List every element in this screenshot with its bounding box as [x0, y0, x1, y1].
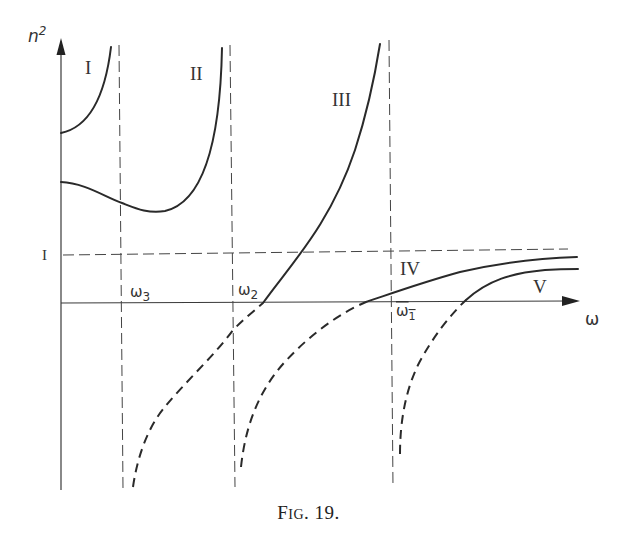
branch-III-solid	[263, 44, 380, 303]
x-axis	[61, 301, 568, 303]
caption-number: . 19.	[304, 502, 340, 523]
unit-line	[63, 249, 568, 255]
dispersion-diagram: n2 ω I ω3 ω2 ω1 I II III IV V	[0, 0, 617, 534]
omega3-asymptote	[119, 45, 123, 488]
branch-III-dashed	[133, 303, 263, 487]
unit-line-label: I	[42, 247, 47, 263]
branch-V-solid	[466, 269, 578, 300]
omega2-asymptote	[230, 45, 235, 487]
caption-initial: F	[277, 502, 288, 523]
figure-caption: FIG. 19.	[0, 502, 617, 524]
branch-IV-label: IV	[400, 258, 420, 279]
omega3-label: ω3	[130, 283, 150, 304]
branch-IV-dashed	[241, 302, 366, 467]
y-axis-label: n2	[28, 24, 46, 46]
x-axis-label: ω	[585, 309, 599, 329]
branch-III-label: III	[332, 89, 351, 110]
branch-I-label: I	[85, 57, 91, 78]
omega2-label: ω2	[238, 281, 258, 302]
caption-smallcaps: IG	[288, 507, 304, 522]
x-axis-arrowhead-icon	[562, 296, 580, 306]
guide-lines	[63, 40, 568, 488]
y-axis-arrowhead-icon	[57, 38, 66, 55]
omega1-label: ω1	[396, 302, 416, 323]
branch-II-label: II	[190, 63, 203, 84]
branch-V-dashed	[400, 300, 466, 454]
omega1-asymptote	[389, 40, 393, 487]
branch-V-label: V	[533, 276, 547, 297]
